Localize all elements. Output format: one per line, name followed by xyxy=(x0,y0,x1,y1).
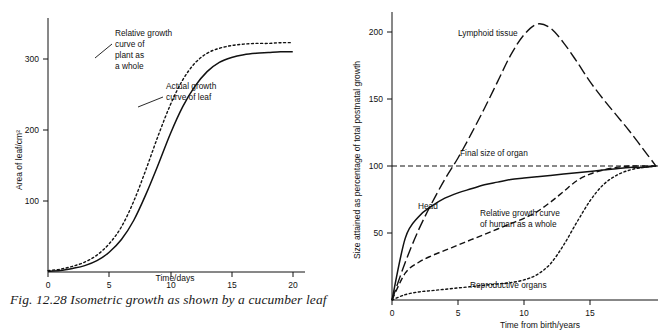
y-tick-label: 200 xyxy=(25,125,39,135)
y-tick-label: 300 xyxy=(25,54,39,64)
annotation-lymphoid-tissue: Lymphoid tissue xyxy=(458,28,518,38)
y-tick-label: 100 xyxy=(25,196,39,206)
left-chart-panel: 100 200 300 0 5 10 15 20 Area of leaf/cm… xyxy=(0,0,340,331)
annotation-head: Head xyxy=(418,201,438,211)
annotation-reproductive-organs: Reproductive organs xyxy=(470,280,547,290)
annotation-relative-growth-human: Relative growth curve of human as a whol… xyxy=(480,208,560,229)
annotation-final-size-of-organ: Final size of organ xyxy=(460,148,528,158)
series-lymphoid-tissue xyxy=(392,24,656,300)
x-axis-label: Time from birth/years xyxy=(500,320,580,330)
y-axis-ticks: 50 100 150 200 xyxy=(369,27,392,238)
x-axis-ticks: 0 5 10 15 xyxy=(390,300,595,318)
x-tick-label: 15 xyxy=(585,308,595,318)
x-tick-label: 5 xyxy=(456,308,461,318)
x-tick-label: 0 xyxy=(46,280,51,290)
annotation-relative-growth-plant: Relative growth curve of plant as a whol… xyxy=(95,28,173,71)
figure-caption: Fig. 12.28 Isometric growth as shown by … xyxy=(10,292,340,309)
x-tick-label: 15 xyxy=(227,280,237,290)
y-axis-label: Size attained as percentage of total pos… xyxy=(352,61,362,259)
x-tick-label: 10 xyxy=(519,308,529,318)
x-axis-label: Time/days xyxy=(156,273,195,283)
y-tick-label: 50 xyxy=(374,228,384,238)
y-tick-label: 100 xyxy=(369,161,383,171)
annotation-line: curve of xyxy=(115,39,145,49)
y-axis-ticks: 100 200 300 xyxy=(25,54,48,206)
annotation-line: plant as xyxy=(115,50,144,60)
annotation-line: Actual growth xyxy=(166,81,217,91)
annotation-line: a whole xyxy=(115,61,144,71)
annotation-actual-growth-leaf: Actual growth curve of leaf xyxy=(138,81,217,107)
x-tick-label: 0 xyxy=(390,308,395,318)
annotation-line: of human as a whole xyxy=(480,219,557,229)
y-axis-label: Area of leaf/cm² xyxy=(14,130,24,190)
y-tick-label: 200 xyxy=(369,27,383,37)
x-tick-label: 20 xyxy=(288,280,298,290)
cucumber-leaf-growth-chart: 100 200 300 0 5 10 15 20 Area of leaf/cm… xyxy=(0,0,340,300)
series-relative-growth-plant xyxy=(48,43,293,271)
y-tick-label: 150 xyxy=(369,94,383,104)
right-chart-panel: 50 100 150 200 0 5 10 15 Size attained a… xyxy=(340,0,668,331)
x-tick-label: 5 xyxy=(107,280,112,290)
human-growth-chart: 50 100 150 200 0 5 10 15 Size attained a… xyxy=(340,0,668,331)
annotation-line: Relative growth xyxy=(115,28,173,38)
annotation-line: curve of leaf xyxy=(166,92,212,102)
annotation-line: Relative growth curve xyxy=(480,208,560,218)
